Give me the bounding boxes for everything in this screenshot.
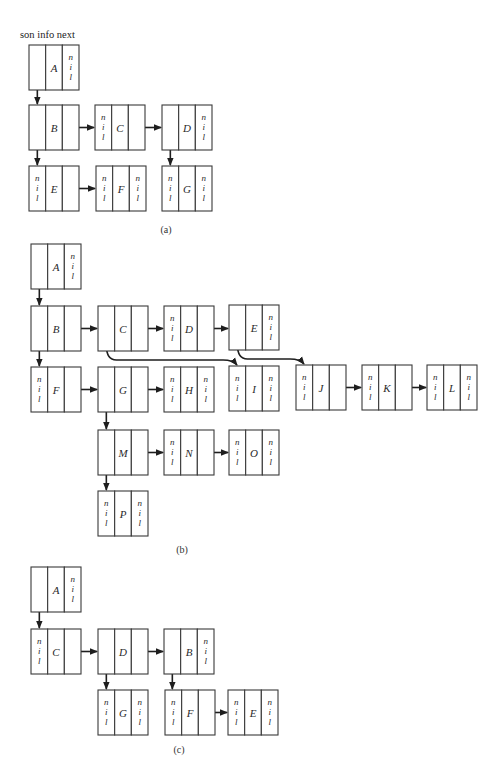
son-field [31,244,48,289]
tree-node-h: Hnilnil [164,367,214,412]
nil-letter: n [203,636,208,646]
tree-node-l: Lnilnil [427,365,477,410]
node-info-label: B [53,323,60,335]
next-field [62,166,79,211]
figure-caption: (a) [160,224,171,236]
tree-node-f: Fnil [165,690,215,735]
tree-node-e: Enilnil [228,690,278,735]
nil-letter: n [267,697,272,707]
son-field [164,629,181,674]
node-info-label: D [184,323,193,335]
tree-node-g: Gnilnil [98,690,148,735]
tree-node-o: Onilnil [229,430,279,475]
nil-letter: n [68,52,73,62]
next-field [197,306,214,351]
next-field [131,367,148,412]
son-field [98,306,115,351]
son-field [98,367,115,412]
tree-node-b: B [31,306,81,351]
node-info-label: D [118,646,127,658]
nil-letter: n [171,697,176,707]
nil-letter: n [70,574,75,584]
tree-node-f: Fnilnil [96,166,146,211]
tree-node-c: Cnil [31,629,81,674]
node-info-label: O [250,447,258,459]
son-field [31,567,48,612]
nil-letter: n [268,437,273,447]
tree-node-g: Gnilnil [162,166,212,211]
node-info-label: B [51,122,58,134]
next-field [395,365,412,410]
next-field [64,629,81,674]
captions-layer: (a)(b)(c) [160,224,187,756]
node-info-label: A [52,584,60,596]
node-info-label: C [119,323,127,335]
son-field [98,430,115,475]
nil-letter: n [137,697,142,707]
node-info-label: D [182,122,191,134]
nil-letter: n [168,173,173,183]
node-info-label: E [50,183,58,195]
next-field [62,105,79,150]
tree-node-e: Enil [229,305,279,350]
next-field [197,430,214,475]
son-field [162,105,179,150]
nil-letter: n [433,372,438,382]
nil-letter: n [35,173,40,183]
tree-node-j: Jnil [296,365,346,410]
nil-letter: n [302,372,307,382]
node-info-label: G [119,384,127,396]
nil-letter: n [201,173,206,183]
nil-letter: n [37,374,42,384]
tree-node-d: Dnil [162,105,212,150]
nil-letter: n [137,498,142,508]
node-info-label: E [250,322,258,334]
figure-caption: (b) [176,544,188,556]
tree-node-b: B [29,105,79,150]
tree-node-a: Anil [29,45,79,90]
next-field [64,367,81,412]
next-field [198,690,215,735]
nil-letter: n [101,112,106,122]
nil-letter: n [170,437,175,447]
node-info-label: E [249,707,257,719]
node-info-label: B [186,646,193,658]
tree-node-d: D [98,629,148,674]
tree-node-a: Anil [31,567,81,612]
nil-letter: n [170,374,175,384]
next-field [64,306,81,351]
nil-letter: n [37,636,42,646]
nil-letter: n [268,312,273,322]
tree-node-c: Cnil [95,105,145,150]
tree-node-p: Pnilnil [98,491,148,536]
nil-letter: n [368,372,373,382]
node-info-label: L [448,382,455,394]
tree-node-m: M [98,430,148,475]
tree-node-k: Knil [362,365,412,410]
node-info-label: F [186,707,194,719]
son-field [31,306,48,351]
node-info-label: N [184,447,193,459]
tree-node-b: Bnil [164,629,214,674]
tree-node-i: Inilnil [229,366,279,411]
node-info-label: G [183,183,191,195]
node-info-label: F [52,384,60,396]
nil-letter: n [102,173,107,183]
tree-node-c: C [98,306,148,351]
son-field [229,305,246,350]
tree-node-f: Fnil [31,367,81,412]
next-field [329,365,346,410]
figure-caption: (c) [173,744,184,756]
next-field [131,306,148,351]
nil-letter: n [268,373,273,383]
tree-node-n: Nnil [164,430,214,475]
field-legend: son info next [20,29,75,40]
node-info-label: A [50,62,58,74]
diagram-canvas: son info next AnilBCnilDnilEnilFnilnilGn… [0,0,501,768]
node-info-label: G [119,707,127,719]
node-info-label: P [119,508,127,520]
nil-letter: n [104,498,109,508]
tree-node-e: Enil [29,166,79,211]
son-field [29,45,46,90]
figure-a: AnilBCnilDnilEnilFnilnilGnilnil [29,45,212,211]
